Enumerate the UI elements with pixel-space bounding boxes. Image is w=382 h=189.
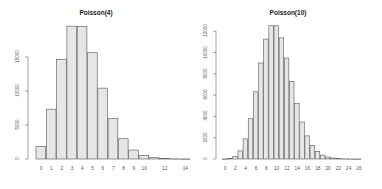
x-tick-label: 5 [91,166,94,171]
x-tick-label: 14 [295,166,300,171]
x-tick-label: 6 [102,166,105,171]
y-tick-label: 15000 [15,50,20,64]
x-tick-label: 18 [315,166,320,171]
bar [300,122,305,159]
y-tick-label: 8000 [203,66,208,80]
bar [295,104,300,159]
bar [36,147,46,159]
x-tick-label: 1 [50,166,53,171]
x-tick-label: 9 [133,166,136,171]
y-tick-label: 10000 [15,84,20,98]
x-tick-label: 10 [274,166,279,171]
y-tick-label: 10000 [203,45,208,59]
bar [243,139,248,159]
bar [264,39,269,159]
x-tick-label: 22 [336,166,341,171]
x-tick-label: 8 [122,166,125,171]
bar [289,81,294,159]
x-tick-label: 2 [60,166,63,171]
x-tick-label: 26 [356,166,361,171]
x-tick-label: 2 [234,166,237,171]
x-tick-label: 10 [141,166,146,171]
bar [88,53,98,159]
bar [238,151,243,159]
x-tick-label: 4 [244,166,247,171]
x-tick-label: 12 [284,166,289,171]
x-tick-label: 20 [325,166,330,171]
bar [248,119,253,159]
bar [77,26,87,159]
x-tick-label: 0 [40,166,43,171]
bar [233,157,238,159]
bar [320,155,325,159]
bar [149,158,159,159]
bar [118,139,128,159]
bar [46,109,56,159]
bar [108,119,118,159]
poisson-4-chart: Poisson(4) 05000100001500001234567891012… [0,0,191,189]
bar [331,158,336,159]
x-tick-label: 12 [162,166,167,171]
bar [67,26,77,159]
bar [253,92,258,159]
x-tick-label: 4 [81,166,84,171]
bar [259,63,264,159]
bar [98,88,108,159]
bar [279,38,284,159]
x-tick-label: 7 [112,166,115,171]
x-tick-label: 16 [305,166,310,171]
poisson-10-chart: Poisson(10) 0200040006000800010000120000… [191,0,382,189]
y-tick-label: 0 [203,152,208,166]
x-tick-label: 8 [265,166,268,171]
y-tick-label: 6000 [203,88,208,102]
x-tick-label: 6 [255,166,258,171]
x-tick-label: 3 [71,166,74,171]
y-tick-label: 4000 [203,109,208,123]
bar [139,155,149,159]
y-tick-label: 12000 [203,24,208,38]
x-tick-label: 24 [346,166,351,171]
bar [315,151,320,159]
y-tick-label: 2000 [203,130,208,144]
bar [269,26,274,159]
x-tick-label: 14 [183,166,188,171]
y-tick-label: 5000 [15,118,20,132]
bar [305,136,310,159]
y-tick-label: 0 [15,152,20,166]
bar [310,145,315,159]
bar [129,150,139,159]
x-tick-label: 0 [224,166,227,171]
bar [284,58,289,159]
plot-area [191,0,382,189]
bar [57,59,67,159]
bar [326,157,331,159]
bar [274,26,279,159]
plot-area [0,0,191,189]
